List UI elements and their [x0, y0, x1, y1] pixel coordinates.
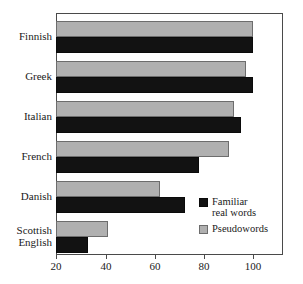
category-label-text: Finnish — [19, 30, 52, 42]
x-tick-mark-20 — [56, 254, 57, 259]
bar-pseudowords-italian — [56, 101, 234, 117]
legend-item-familiar-real-words: Familiar real words — [199, 196, 283, 218]
x-tick-label-60: 60 — [150, 260, 161, 272]
category-label-scottish-english: Scottish English — [17, 225, 52, 248]
bar-familiar-real-words-italian — [56, 117, 241, 133]
bar-chart-figure: Finnish Greek Italian French Danish Scot… — [0, 0, 303, 284]
category-label-text: Danish — [21, 190, 52, 202]
bar-familiar-real-words-french — [56, 157, 199, 173]
category-label-french: French — [21, 151, 52, 163]
category-label-finnish: Finnish — [19, 31, 52, 43]
legend-swatch-gray-square-icon — [199, 225, 208, 234]
caption-fragment — [18, 274, 288, 281]
x-tick-mark-80 — [204, 254, 205, 259]
category-label-text: Italian — [24, 110, 52, 122]
bar-familiar-real-words-finnish — [56, 37, 253, 53]
bar-pseudowords-french — [56, 141, 229, 157]
x-tick-label-80: 80 — [199, 260, 210, 272]
x-tick-mark-60 — [155, 254, 156, 259]
legend-label-pseudowords: Pseudowords — [212, 223, 268, 234]
bar-pseudowords-greek — [56, 61, 246, 77]
bar-pseudowords-finnish — [56, 21, 253, 37]
x-tick-label-20: 20 — [51, 260, 62, 272]
legend-label-familiar-real-words: Familiar real words — [212, 196, 256, 218]
x-tick-label-100: 100 — [245, 260, 262, 272]
x-tick-mark-100 — [253, 254, 254, 259]
bar-familiar-real-words-scottish-english — [56, 237, 88, 253]
bar-pseudowords-scottish-english — [56, 221, 108, 237]
legend-item-pseudowords: Pseudowords — [199, 223, 283, 234]
x-tick-mark-40 — [106, 254, 107, 259]
category-label-text-line1: Scottish — [17, 225, 52, 237]
bar-familiar-real-words-greek — [56, 77, 253, 93]
category-label-danish: Danish — [21, 191, 52, 203]
category-label-text: French — [21, 150, 52, 162]
legend-swatch-black-square-icon — [199, 198, 208, 207]
bar-familiar-real-words-danish — [56, 197, 185, 213]
category-label-greek: Greek — [25, 71, 52, 83]
category-label-text: Greek — [25, 70, 52, 82]
bar-pseudowords-danish — [56, 181, 160, 197]
chart-legend: Familiar real words Pseudowords — [199, 196, 283, 239]
x-tick-label-40: 40 — [101, 260, 112, 272]
category-label-text-line2: English — [17, 237, 52, 249]
category-label-italian: Italian — [24, 111, 52, 123]
